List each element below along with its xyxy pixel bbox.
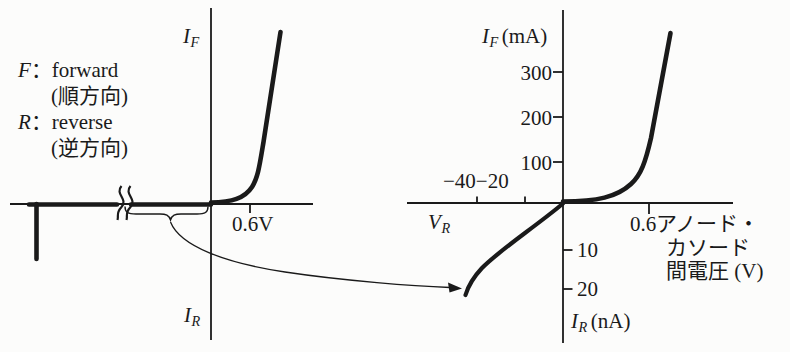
right-x-neg-tick-labels: −40−20 — [443, 170, 509, 192]
right-forward-curve — [563, 33, 671, 202]
right-y-neg-tick-label-10: 10 — [577, 239, 598, 261]
left-x-tick-label: 0.6V — [232, 213, 273, 235]
right-vr-axis-label: VR — [428, 211, 450, 233]
legend-forward-ja: (順方向) — [18, 79, 128, 105]
legend-forward: F：forward — [18, 53, 128, 79]
right-y-tick-label-300: 300 — [505, 62, 552, 84]
left-forward-curve — [211, 32, 281, 203]
right-x-pos-tick-label: 0.6 — [630, 212, 656, 236]
left-if-axis-label: IF — [183, 25, 199, 47]
right-y-tick-label-200: 200 — [505, 107, 552, 129]
right-y-neg-tick-label-20: 20 — [577, 278, 598, 300]
legend-reverse: R：reverse — [18, 105, 128, 131]
left-ir-axis-label: IR — [184, 304, 200, 326]
right-y-tick-label-100: 100 — [505, 152, 552, 174]
reverse-region-brace — [125, 207, 208, 221]
magnify-arrow-shaft — [171, 222, 451, 288]
right-if-axis-label: IF(mA) — [482, 25, 547, 47]
x-axis-title-line3: 間電圧 (V) — [666, 260, 763, 282]
x-axis-title-line2: カソード — [666, 237, 750, 259]
legend-block: F：forward (順方向) R：reverse (逆方向) — [18, 53, 128, 157]
x-axis-title-line1: アノード・ — [656, 212, 759, 236]
right-x-pos-tick-and-title-line1: 0.6アノード・ — [630, 213, 759, 235]
diode-characteristics-figure: F：forward (順方向) R：reverse (逆方向) IF IR 0.… — [0, 0, 790, 352]
right-reverse-curve — [466, 204, 564, 296]
legend-reverse-ja: (逆方向) — [18, 131, 128, 157]
magnify-arrow-head — [448, 283, 462, 293]
right-ir-axis-label: IR(nA) — [571, 310, 630, 332]
